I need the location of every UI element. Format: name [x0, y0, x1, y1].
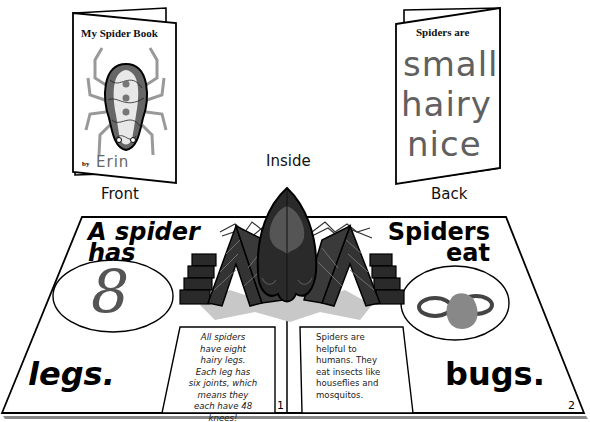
pop-up-spider-icon — [0, 0, 590, 422]
